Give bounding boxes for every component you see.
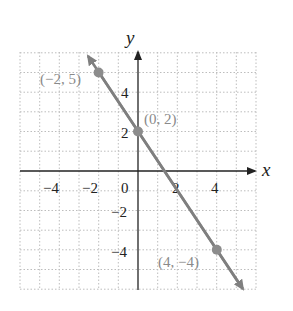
tick-origin: 0 — [121, 180, 129, 196]
tick-x-4: 4 — [211, 180, 219, 196]
tick-y-neg2: −2 — [111, 204, 127, 220]
tick-y-2: 2 — [121, 125, 129, 141]
point-label-neg2-5: (−2, 5) — [40, 71, 81, 88]
coordinate-plane: x y −4 −2 0 2 4 4 2 −2 −4 (−2, 5) (0, 2)… — [0, 0, 293, 311]
tick-y-4: 4 — [121, 85, 129, 101]
tick-y-neg4: −4 — [111, 244, 127, 260]
graph-line — [87, 57, 102, 280]
point-label-0-2: (0, 2) — [144, 111, 177, 128]
point-neg2-5 — [94, 68, 104, 78]
tick-x-neg4: −4 — [43, 180, 59, 196]
point-0-2 — [133, 127, 143, 137]
x-axis-label: x — [261, 159, 271, 180]
point-label-4-neg4: (4, −4) — [158, 254, 199, 271]
y-axis-label: y — [124, 27, 135, 48]
tick-x-neg2: −2 — [82, 180, 98, 196]
point-4-neg4 — [212, 245, 222, 255]
